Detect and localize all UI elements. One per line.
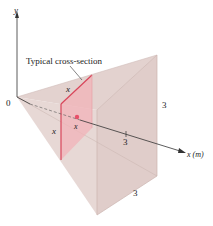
- section-width-label: x: [65, 84, 70, 94]
- pyramid-cross-section-diagram: y 0 Typical cross-section x x x 3 3 3 x …: [0, 0, 213, 226]
- y-axis-label: y: [13, 5, 18, 15]
- height-label: 3: [162, 100, 167, 110]
- annotation-label: Typical cross-section: [26, 56, 103, 66]
- x-axis-label: x (m): [186, 150, 204, 159]
- section-height-label: x: [51, 126, 56, 136]
- origin-label: 0: [6, 98, 11, 108]
- cross-section-leader: [70, 66, 82, 80]
- depth-label: 3: [133, 188, 138, 198]
- section-position-label: x: [73, 122, 78, 131]
- x-axis-arrow-icon: [178, 148, 186, 153]
- x-tick-label: 3: [123, 137, 128, 147]
